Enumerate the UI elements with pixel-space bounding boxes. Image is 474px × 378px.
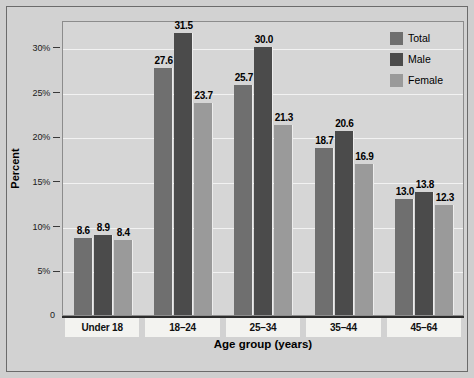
x-axis-title: Age group (years)	[62, 338, 464, 350]
bar-female[interactable]	[435, 205, 454, 315]
y-axis-tick-mark	[53, 137, 60, 138]
x-axis-category-label: Under 18	[82, 322, 123, 333]
figure-frame: Percent 5%10%15%20%25%30% 8.68.98.427.63…	[6, 6, 468, 372]
legend-swatch-female	[390, 74, 403, 87]
legend-item-male[interactable]: Male	[390, 50, 460, 68]
y-axis-tick-mark	[53, 271, 60, 272]
x-axis-category: Under 18	[65, 318, 139, 337]
bar-column[interactable]: 8.9	[94, 22, 113, 315]
bar-column[interactable]: 23.7	[194, 22, 213, 315]
bar-column[interactable]: 20.6	[335, 22, 354, 315]
bar-column[interactable]: 27.6	[154, 22, 173, 315]
bar-total[interactable]	[234, 85, 253, 315]
bar-column[interactable]: 30.0	[254, 22, 273, 315]
y-axis-tick: 5%	[37, 265, 62, 277]
bar-male[interactable]	[415, 192, 434, 315]
legend-swatch-male	[390, 53, 403, 66]
bar-group-bars: 8.68.98.4	[63, 22, 143, 315]
bar-value-label: 23.7	[194, 90, 212, 101]
bar-male[interactable]	[335, 131, 354, 315]
bar-group: 18.720.616.9	[304, 22, 384, 315]
bar-female[interactable]	[274, 125, 293, 315]
x-axis-category-label: 25–34	[250, 322, 277, 333]
bar-group: 8.68.98.4	[63, 22, 143, 315]
bar-column[interactable]: 21.3	[274, 22, 293, 315]
bar-value-label: 8.4	[117, 227, 130, 238]
bar-group: 25.730.021.3	[224, 22, 304, 315]
legend-label: Total	[408, 32, 430, 44]
legend-label: Male	[408, 53, 431, 65]
y-axis-tick-label: 20%	[33, 132, 50, 142]
bar-male[interactable]	[174, 33, 193, 315]
bar-total[interactable]	[74, 238, 93, 315]
bar-value-label: 20.6	[335, 118, 353, 129]
y-axis-tick-label: 15%	[33, 177, 50, 187]
y-axis-tick: 25%	[33, 87, 62, 99]
bar-value-label: 31.5	[174, 20, 192, 31]
bar-value-label: 13.8	[416, 179, 434, 190]
bar-value-label: 16.9	[355, 151, 373, 162]
bar-group-bars: 18.720.616.9	[304, 22, 384, 315]
x-axis-category: 35–44	[306, 318, 380, 337]
legend-item-female[interactable]: Female	[390, 71, 460, 89]
x-axis-category-label: 18–24	[169, 322, 196, 333]
x-axis-category: 18–24	[145, 318, 219, 337]
bar-column[interactable]: 8.4	[114, 22, 133, 315]
x-axis-categories: Under 1818–2425–3435–4445–64	[62, 318, 464, 337]
legend: TotalMaleFemale	[390, 29, 460, 92]
bar-group-bars: 25.730.021.3	[224, 22, 304, 315]
x-axis-category: 25–34	[226, 318, 300, 337]
bar-column[interactable]: 16.9	[355, 22, 374, 315]
bar-total[interactable]	[315, 148, 334, 315]
bar-group-bars: 27.631.523.7	[143, 22, 223, 315]
bar-column[interactable]: 31.5	[174, 22, 193, 315]
y-axis-tick-label: 30%	[33, 43, 50, 53]
y-axis-tick-mark	[53, 92, 60, 93]
y-axis-tick: 30%	[33, 42, 62, 54]
bar-value-label: 21.3	[275, 112, 293, 123]
x-axis-category-label: 35–44	[330, 322, 357, 333]
y-axis-tick-mark	[53, 226, 60, 227]
x-axis-category-label: 45–64	[410, 322, 437, 333]
bar-value-label: 30.0	[255, 34, 273, 45]
bar-value-label: 13.0	[396, 186, 414, 197]
bar-male[interactable]	[254, 47, 273, 315]
bar-female[interactable]	[194, 103, 213, 315]
bar-value-label: 27.6	[154, 55, 172, 66]
bar-total[interactable]	[395, 199, 414, 315]
y-axis-tick: 20%	[33, 131, 62, 143]
y-axis-tick: 10%	[33, 221, 62, 233]
y-axis-tick-label: 25%	[33, 88, 50, 98]
bar-value-label: 8.6	[77, 225, 90, 236]
bar-column[interactable]: 25.7	[234, 22, 253, 315]
bar-value-label: 8.9	[97, 222, 110, 233]
y-tick-zero-label: 0	[43, 310, 55, 320]
bar-male[interactable]	[94, 235, 113, 315]
y-axis-tick-mark	[53, 47, 60, 48]
bar-value-label: 18.7	[315, 135, 333, 146]
bar-group: 27.631.523.7	[143, 22, 223, 315]
legend-swatch-total	[390, 32, 403, 45]
bar-column[interactable]: 18.7	[315, 22, 334, 315]
y-axis-tick: 15%	[33, 176, 62, 188]
x-axis-category: 45–64	[387, 318, 461, 337]
chart-screenshot: Percent 5%10%15%20%25%30% 8.68.98.427.63…	[0, 0, 474, 378]
y-axis-tick-mark	[53, 181, 60, 182]
legend-item-total[interactable]: Total	[390, 29, 460, 47]
y-axis-tick-label: 5%	[37, 266, 50, 276]
y-axis: 5%10%15%20%25%30%	[7, 21, 62, 316]
bar-female[interactable]	[114, 240, 133, 315]
bar-value-label: 25.7	[235, 72, 253, 83]
y-axis-tick-label: 10%	[33, 222, 50, 232]
bar-value-label: 12.3	[436, 192, 454, 203]
bar-column[interactable]: 8.6	[74, 22, 93, 315]
bar-total[interactable]	[154, 68, 173, 315]
bar-female[interactable]	[355, 164, 374, 315]
legend-label: Female	[408, 74, 443, 86]
